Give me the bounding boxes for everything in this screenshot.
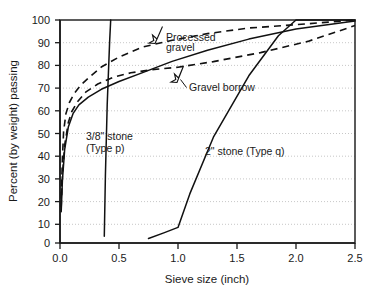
y-tick-label-10: 10 [38,218,50,230]
annotation-two-inch-stone: 2" stone (Type q) [205,145,285,157]
x-tick-label-4: 2.0 [288,252,303,264]
y-tick-label-50: 50 [38,128,50,140]
x-tick-label-5: 2.5 [347,252,362,264]
x-tick-label-1: 0.5 [111,252,126,264]
chart-canvas: 100 90 80 70 60 50 40 30 20 10 0 0.0 0.5… [0,0,380,300]
y-tick-label-70: 70 [38,82,50,94]
x-axis-title: Sieve size (inch) [165,273,250,285]
x-tick-label-2: 1.0 [170,252,185,264]
y-tick-label-90: 90 [38,37,50,49]
annotation-gravel-borrow-line1: Gravel borrow [189,81,255,93]
annotation-three-eighths-stone-line1: 3/8" stone [86,130,133,142]
y-tick-label-100: 100 [32,14,50,26]
y-tick-label-40: 40 [38,150,50,162]
y-axis-title: Percent (by weight) passing [7,60,19,202]
y-tick-label-20: 20 [38,196,50,208]
annotation-three-eighths-stone-line2: (Type p) [86,142,125,154]
y-tick-label-80: 80 [38,59,50,71]
annotation-processed-gravel-line2: gravel [166,41,195,53]
y-tick-label-0: 0 [44,237,50,249]
x-tick-label-3: 1.5 [229,252,244,264]
y-tick-label-30: 30 [38,173,50,185]
annotation-two-inch-stone-line1: 2" stone (Type q) [205,145,285,157]
y-tick-label-60: 60 [38,105,50,117]
grain-size-distribution-chart: 100 90 80 70 60 50 40 30 20 10 0 0.0 0.5… [0,0,380,300]
x-tick-marks [60,243,355,249]
x-tick-label-0: 0.0 [52,252,67,264]
